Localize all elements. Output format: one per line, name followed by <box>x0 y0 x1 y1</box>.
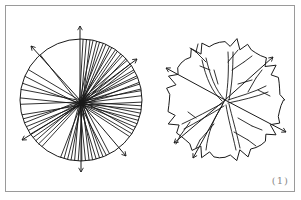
radial-line <box>83 101 134 131</box>
figure-artwork <box>0 0 301 200</box>
radial-circle-diagram <box>20 26 142 172</box>
arrow-lower-left-icon <box>174 100 225 143</box>
arrow-lower-left-2-icon <box>193 100 225 158</box>
arrow-lower-left-icon <box>22 104 80 140</box>
tree-crown-diagram <box>166 39 286 161</box>
arrows-left <box>22 26 137 172</box>
radial-line <box>25 76 81 105</box>
tree-limbs <box>176 44 270 150</box>
figure-label: (1) <box>272 175 289 186</box>
